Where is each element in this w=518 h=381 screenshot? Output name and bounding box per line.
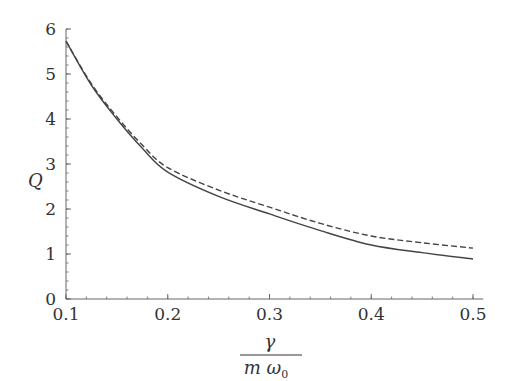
y-tick-label: 2 — [45, 199, 56, 219]
x-tick-label: 0.4 — [358, 304, 385, 324]
y-tick-label: 3 — [45, 154, 56, 174]
y-axis-label: Q — [28, 170, 43, 191]
x-axis-label-denominator: m ω0 — [244, 357, 288, 381]
q-vs-damping-chart: 0.10.20.30.40.5 0123456 Q γ m ω0 — [0, 0, 518, 381]
x-tick-label: 0.2 — [154, 304, 181, 324]
data-series — [66, 41, 473, 259]
y-tick-label: 6 — [45, 19, 56, 39]
minor-ticks — [66, 29, 473, 299]
dashed-curve — [66, 41, 473, 248]
x-axis-label: γ m ω0 — [240, 331, 302, 381]
y-tick-label: 4 — [45, 109, 56, 129]
x-tick-label: 0.3 — [256, 304, 283, 324]
y-tick-label: 5 — [45, 64, 56, 84]
x-axis-label-numerator: γ — [265, 331, 276, 352]
y-tick-label: 0 — [45, 289, 56, 309]
x-tick-label: 0.5 — [459, 304, 486, 324]
solid-curve — [66, 41, 473, 259]
axes — [66, 29, 483, 299]
x-tick-label: 0.1 — [52, 304, 79, 324]
y-axis-ticks: 0123456 — [45, 19, 71, 309]
y-tick-label: 1 — [45, 244, 56, 264]
